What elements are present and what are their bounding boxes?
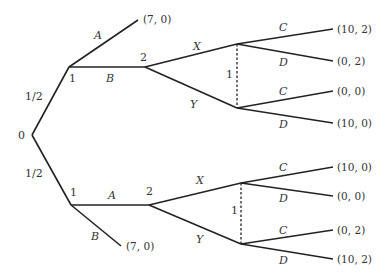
payoff-lower-Y-D: (10, 2) — [337, 253, 372, 265]
payoff-upper-X-C: (10, 2) — [337, 23, 372, 35]
upper-action-X: X — [192, 40, 202, 53]
lower-action-A: A — [107, 189, 116, 202]
lower-Y-action-D: D — [278, 254, 288, 267]
upper-X-action-D: D — [278, 56, 288, 69]
payoff-lower-Y-C: (0, 2) — [337, 224, 365, 236]
lower-action-Y: Y — [196, 233, 205, 246]
payoff-upper-X-D: (0, 2) — [337, 55, 365, 67]
lower-X-action-D: D — [278, 192, 288, 205]
upper-action-A: A — [93, 29, 102, 42]
lower-X-action-C: C — [279, 161, 288, 174]
tree-edges — [32, 20, 333, 259]
upper-action-B: B — [105, 72, 114, 85]
payoff-lower-X-C: (10, 0) — [337, 161, 372, 173]
upper-infoset-label: 1 — [226, 68, 233, 81]
lower-infoset-label: 1 — [231, 204, 238, 217]
payoff-upper-Y-C: (0, 0) — [337, 85, 365, 97]
upper-player1-label: 1 — [69, 72, 76, 85]
lower-action-B: B — [90, 230, 99, 243]
upper-terminal-A-payoff: (7, 0) — [143, 13, 171, 25]
upper-player2-label: 2 — [140, 51, 147, 64]
edge-lower-Y — [149, 205, 241, 244]
lower-terminal-B-payoff: (7, 0) — [126, 240, 154, 252]
root-node-label: 0 — [18, 129, 25, 142]
upper-Y-action-D: D — [278, 118, 288, 131]
lower-action-X: X — [195, 174, 205, 187]
upper-X-action-C: C — [279, 21, 288, 34]
lower-player1-label: 1 — [70, 186, 77, 199]
upper-action-Y: Y — [190, 98, 199, 111]
edge-lower-X — [149, 183, 241, 205]
edge-upper-X — [145, 44, 237, 67]
payoff-lower-X-D: (0, 0) — [337, 190, 365, 202]
lower-player2-label: 2 — [146, 185, 153, 198]
upper-Y-action-C: C — [279, 85, 288, 98]
lower-Y-action-C: C — [279, 224, 288, 237]
chance-prob-lower: 1/2 — [25, 167, 43, 180]
payoff-upper-Y-D: (10, 0) — [337, 117, 372, 129]
edge-upper-A — [69, 20, 138, 67]
chance-prob-upper: 1/2 — [25, 90, 43, 103]
game-tree-diagram: 0 1/2 1/2 1 A B (7, 0) 2 X Y 1 C D C D (… — [0, 0, 384, 279]
